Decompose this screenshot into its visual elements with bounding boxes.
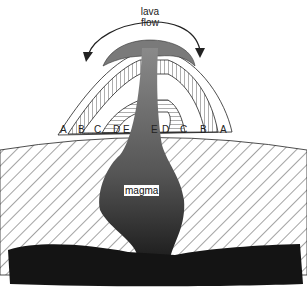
label-left-b: B (78, 125, 85, 135)
lava-flow-label: lava flow (130, 6, 170, 28)
label-right-b: B (200, 125, 207, 135)
volcano-diagram (0, 0, 307, 290)
label-right-d: D (162, 125, 169, 135)
arrowhead-left (83, 52, 93, 62)
label-right-e: E (151, 125, 158, 135)
label-left-a: A (60, 125, 67, 135)
magma-label: magma (124, 185, 159, 196)
flow-text: flow (130, 17, 170, 28)
label-left-e: E (123, 125, 130, 135)
label-right-c: C (180, 125, 187, 135)
label-left-d: D (113, 125, 120, 135)
arrowhead-right (195, 48, 205, 58)
label-right-a: A (220, 125, 227, 135)
label-left-c: C (94, 125, 101, 135)
lava-text: lava (130, 6, 170, 17)
